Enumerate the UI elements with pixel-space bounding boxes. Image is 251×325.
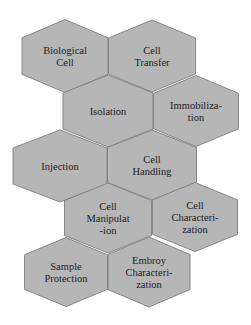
hexagon-label: Embroy [132, 255, 167, 266]
hexagon-label: Manipulat [86, 213, 129, 224]
hexagon-layer: BiologicalCellCellTransferIsolationImmob… [13, 20, 239, 308]
hexagon-label: Transfer [134, 57, 170, 68]
hexagon-label: tion [188, 112, 205, 123]
hexagon-label: Cell [99, 201, 117, 212]
hexagon-label: Handling [132, 166, 172, 177]
hexagon-label: Characteri- [125, 267, 173, 278]
hexagon-label: Cell [143, 154, 161, 165]
hexagon-diagram: BiologicalCellCellTransferIsolationImmob… [0, 0, 251, 325]
hexagon-label: -ion [100, 225, 118, 236]
hexagon-label: Sample [50, 261, 82, 272]
hexagon-label: zation [136, 279, 162, 290]
hexagon-label: Immobiliza- [170, 100, 222, 111]
hexagon-label: Cell [143, 45, 161, 56]
hexagon-label: Protection [44, 273, 88, 284]
hexagon-label: Cell [56, 57, 74, 68]
hexagon-label: Characteri- [171, 212, 219, 223]
hexagon-label: Isolation [90, 106, 127, 117]
hexagon-label: zation [182, 224, 208, 235]
hexagon-label: Injection [41, 161, 79, 172]
hexagon-label: Biological [43, 45, 87, 56]
hexagon-label: Cell [186, 200, 204, 211]
